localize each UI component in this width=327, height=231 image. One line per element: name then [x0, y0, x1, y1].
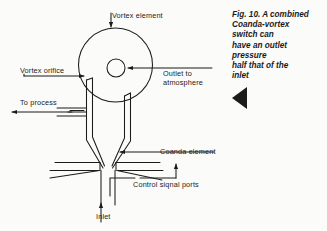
outlet-orifice-circle [107, 59, 125, 77]
figure-caption: Fig. 10. A combined Coanda-vortex switch… [232, 10, 324, 81]
chamber-left-junction [87, 78, 93, 80]
label-to-process: To process [20, 98, 57, 107]
figure-canvas: Vortex element Vortex orifice To process… [0, 0, 327, 231]
control-signal-ports-leader-left [110, 178, 135, 196]
inlet-skirt-left [50, 171, 100, 179]
label-vortex-element: Vortex element [112, 11, 163, 20]
label-inlet: Inlet [96, 212, 111, 221]
nozzle-outer-left-wall [87, 80, 104, 168]
label-outlet-to-atmosphere: Outlet to atmosphere [163, 69, 203, 87]
label-control-signal-ports: Control siqnal ports [133, 180, 199, 189]
inlet-skirt-right [117, 171, 162, 181]
chamber-right-junction [125, 93, 131, 96]
vortex-chamber-circle [79, 28, 153, 102]
nozzle-outer-right-wall [113, 93, 131, 168]
nozzle-inner-right-wall [112, 96, 125, 166]
caption-triangle-marker [232, 87, 247, 109]
label-vortex-orifice: Vortex orifice [20, 66, 64, 75]
label-coanda-element: Coanda element [160, 147, 216, 156]
